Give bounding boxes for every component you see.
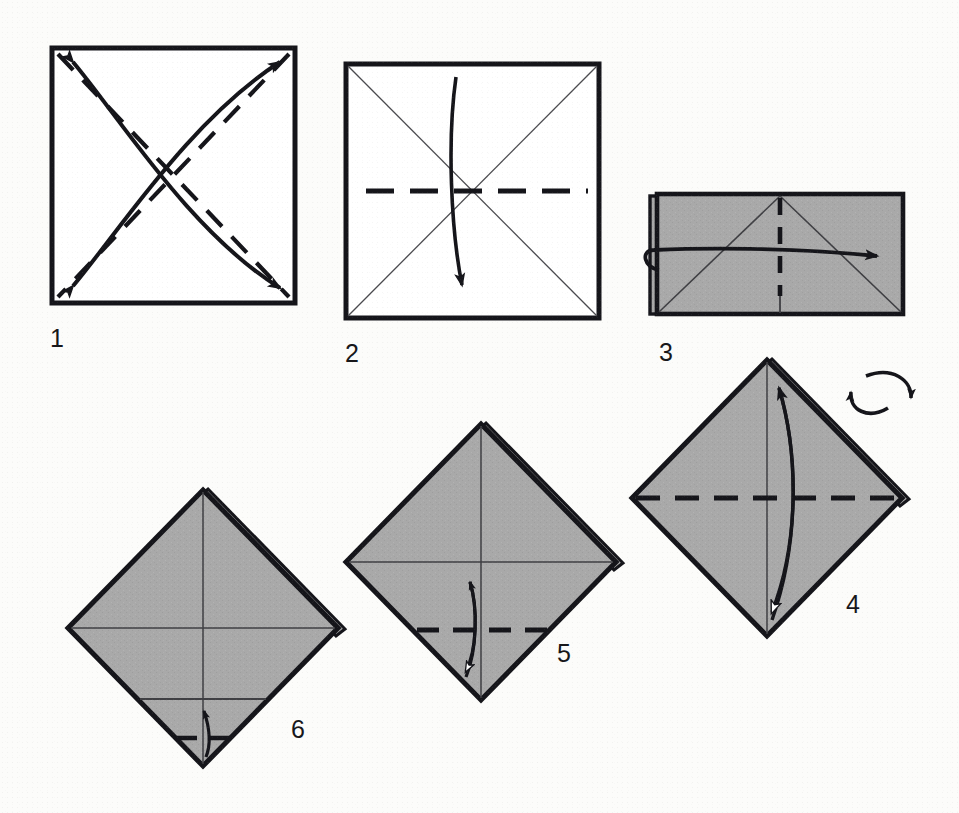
step-4-figure [632,359,911,636]
step-label-1: 1 [50,326,64,351]
turn-over-icon-arc-left [851,392,888,413]
step-3-figure [645,194,903,314]
step-label-4: 4 [846,592,860,617]
step-label-3: 3 [659,340,673,365]
origami-diagram-page: 1 2 3 4 5 6 [0,0,959,813]
turn-over-icon-arc-right [866,373,911,398]
step-5-figure [346,423,623,700]
step-1-figure [52,48,295,303]
step-label-5: 5 [557,641,571,666]
step-label-2: 2 [345,341,359,366]
step-2-figure [346,64,599,318]
step-label-6: 6 [291,717,305,742]
turn-over-icon [851,373,911,414]
diagram-canvas [0,0,959,813]
